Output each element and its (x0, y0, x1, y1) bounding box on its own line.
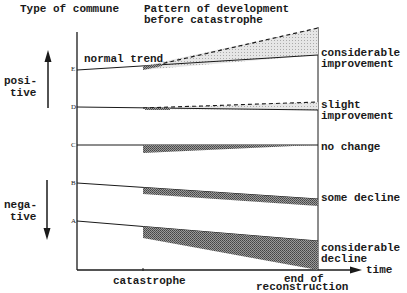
outcome-a-line2: decline (321, 254, 367, 265)
positive-arrow-icon (45, 50, 52, 108)
trend-b (77, 183, 318, 206)
negative-label-line1: nega- (4, 200, 37, 211)
header-pattern-line2: before catastrophe (144, 15, 263, 26)
outcome-c: no change (321, 142, 380, 153)
catastrophe-label: catastrophe (113, 276, 186, 287)
trend-a (77, 221, 318, 270)
negative-arrow-icon (44, 180, 51, 240)
type-e-tick: E (71, 66, 75, 73)
type-d-tick: D (71, 104, 76, 111)
x-axis-arrowhead-icon (350, 267, 362, 274)
x-axis-time-label: time (366, 265, 392, 276)
negative-label-line2: tive (10, 212, 36, 223)
outcome-b: some decline (321, 193, 400, 204)
trend-c (77, 145, 318, 153)
type-a-tick: A (71, 218, 76, 225)
outcome-d-line2: improvement (321, 111, 394, 122)
reconstruction-label: reconstruction (256, 282, 348, 293)
header-type-of-commune: Type of commune (20, 4, 119, 15)
outcome-e-line2: improvement (321, 59, 394, 70)
positive-label-line1: posi- (4, 76, 37, 87)
normal-trend-label: normal trend (84, 54, 163, 65)
trend-d (77, 102, 318, 110)
positive-label-line2: tive (10, 88, 36, 99)
type-c-tick: C (71, 142, 76, 149)
type-b-tick: B (71, 180, 76, 187)
